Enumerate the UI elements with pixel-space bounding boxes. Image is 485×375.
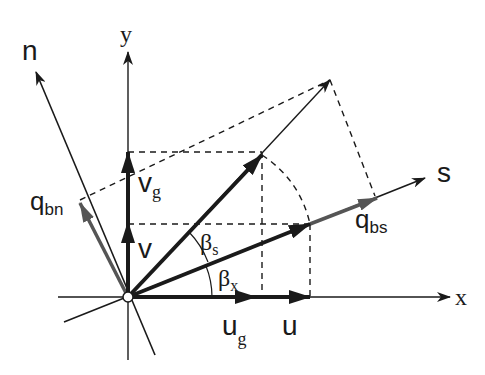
x-axis-label: x bbox=[455, 284, 467, 310]
y-axis-label: y bbox=[120, 21, 132, 47]
s-axis-label: s bbox=[437, 157, 451, 188]
vector-diagram: y x n s u ug v vg qbs qbn βs βx bbox=[0, 0, 485, 375]
origin-marker bbox=[123, 292, 133, 302]
axes bbox=[36, 52, 450, 360]
beta-s-label: βs bbox=[200, 229, 218, 258]
qbn-vector bbox=[80, 203, 128, 297]
vg-label: vg bbox=[138, 167, 161, 202]
v-label: v bbox=[138, 233, 152, 264]
n-axis-label: n bbox=[22, 35, 38, 66]
beta-x-label: βx bbox=[218, 265, 238, 294]
ug-label: ug bbox=[222, 310, 247, 349]
qbs-label: qbs bbox=[355, 204, 387, 237]
u-label: u bbox=[282, 310, 298, 341]
qbn-label: qbn bbox=[30, 186, 63, 219]
beta-x-arc bbox=[206, 266, 212, 297]
